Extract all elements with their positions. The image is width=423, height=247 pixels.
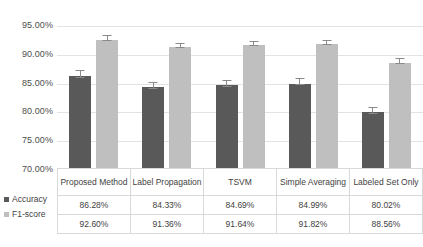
y-tick-label-3: 80.00% xyxy=(22,107,53,116)
table-header-row: Proposed MethodLabel PropagationTSVMSimp… xyxy=(58,169,423,196)
bar-accuracy xyxy=(216,85,238,170)
error-bar-cap-top xyxy=(176,43,185,44)
bar-group xyxy=(130,0,203,174)
error-bar-cap-bottom xyxy=(76,77,85,78)
error-bar xyxy=(249,41,258,47)
y-tick-label-0: 95.00% xyxy=(22,21,53,30)
error-bar xyxy=(295,78,304,84)
chart-legend: Accuracy F1-score xyxy=(0,168,57,230)
y-tick-label-1: 90.00% xyxy=(22,50,53,59)
bar-group xyxy=(277,0,350,174)
table-cell: 88.56% xyxy=(350,215,423,234)
bar-f1 xyxy=(169,47,191,170)
bar-group xyxy=(350,0,423,174)
bar-f1 xyxy=(243,45,265,170)
error-bar xyxy=(395,58,404,64)
legend-item-accuracy: Accuracy xyxy=(4,194,47,204)
bar-f1 xyxy=(96,40,118,170)
bar-slot xyxy=(289,0,311,174)
error-bar-cap-bottom xyxy=(103,40,112,41)
table-cell: 80.02% xyxy=(350,196,423,215)
bar-accuracy xyxy=(289,84,311,170)
error-bar xyxy=(322,40,331,46)
table-cell: 84.33% xyxy=(131,196,204,215)
table-row: 92.60%91.36%91.64%91.82%88.56% xyxy=(58,215,423,234)
error-bar-cap-top xyxy=(322,40,331,41)
bar-accuracy xyxy=(362,112,384,170)
error-bar-cap-top xyxy=(103,35,112,36)
legend-item-f1: F1-score xyxy=(4,209,46,219)
table-header-cell: TSVM xyxy=(204,169,277,196)
bar-slot xyxy=(96,0,118,174)
y-tick-label-4: 75.00% xyxy=(22,136,53,145)
bar-group xyxy=(203,0,276,174)
bar-slot xyxy=(142,0,164,174)
bar-slot xyxy=(169,0,191,174)
bar-slot xyxy=(69,0,91,174)
y-tick-label-2: 85.00% xyxy=(22,79,53,88)
legend-label-f1: F1-score xyxy=(12,209,46,219)
bar-slot xyxy=(243,0,265,174)
chart-root: 95.00% 90.00% 85.00% 80.00% 75.00% 70.00… xyxy=(0,0,423,247)
error-bar-cap-top xyxy=(149,82,158,83)
table-header-cell: Simple Averaging xyxy=(277,169,350,196)
error-bar xyxy=(149,82,158,88)
bar-groups xyxy=(57,0,423,174)
f1-swatch-icon xyxy=(4,212,9,217)
error-bar-cap-bottom xyxy=(368,113,377,114)
error-bar xyxy=(222,80,231,87)
table-cell: 84.69% xyxy=(204,196,277,215)
error-bar xyxy=(368,107,377,114)
error-bar-cap-top xyxy=(76,70,85,71)
table-cell: 86.28% xyxy=(58,196,131,215)
error-bar xyxy=(103,35,112,41)
table-cell: 91.64% xyxy=(204,215,277,234)
table-cell: 92.60% xyxy=(58,215,131,234)
error-bar-cap-top xyxy=(249,41,258,42)
error-bar-cap-bottom xyxy=(249,45,258,46)
legend-label-accuracy: Accuracy xyxy=(12,194,47,204)
table-cell: 91.36% xyxy=(131,215,204,234)
error-bar-cap-bottom xyxy=(222,86,231,87)
data-table-body: Proposed MethodLabel PropagationTSVMSimp… xyxy=(58,169,423,234)
table-cell: 84.99% xyxy=(277,196,350,215)
error-bar-cap-top xyxy=(395,58,404,59)
table-row: 86.28%84.33%84.69%84.99%80.02% xyxy=(58,196,423,215)
data-table-wrap: Accuracy F1-score Proposed MethodLabel P… xyxy=(0,168,423,230)
error-bar xyxy=(176,43,185,48)
error-bar-cap-bottom xyxy=(395,63,404,64)
bar-accuracy xyxy=(69,76,91,170)
error-bar-cap-bottom xyxy=(322,44,331,45)
y-axis-labels: 95.00% 90.00% 85.00% 80.00% 75.00% 70.00… xyxy=(0,0,57,174)
error-bar-cap-top xyxy=(295,78,304,79)
table-cell: 91.82% xyxy=(277,215,350,234)
error-bar-cap-top xyxy=(368,107,377,108)
error-bar-cap-bottom xyxy=(149,88,158,89)
bar-f1 xyxy=(389,63,411,170)
plot-area: 95.00% 90.00% 85.00% 80.00% 75.00% 70.00… xyxy=(0,0,423,174)
data-table: Proposed MethodLabel PropagationTSVMSimp… xyxy=(57,168,423,234)
error-bar-cap-bottom xyxy=(176,47,185,48)
bar-slot xyxy=(216,0,238,174)
table-header-cell: Labeled Set Only xyxy=(350,169,423,196)
bar-slot xyxy=(389,0,411,174)
bar-f1 xyxy=(316,44,338,170)
table-header-cell: Proposed Method xyxy=(58,169,131,196)
error-bar-cap-bottom xyxy=(295,84,304,85)
bar-group xyxy=(57,0,130,174)
table-header-cell: Label Propagation xyxy=(131,169,204,196)
error-bar xyxy=(76,70,85,77)
bar-slot xyxy=(316,0,338,174)
bar-accuracy xyxy=(142,87,164,170)
accuracy-swatch-icon xyxy=(4,197,9,202)
bar-slot xyxy=(362,0,384,174)
error-bar-cap-top xyxy=(222,80,231,81)
